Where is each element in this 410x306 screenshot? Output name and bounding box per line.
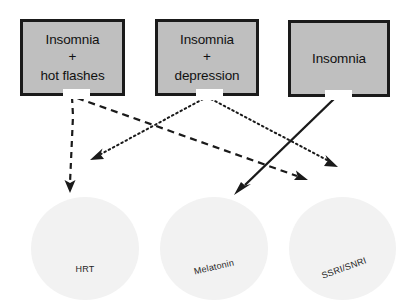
connector-notch-depression bbox=[196, 89, 223, 100]
connector-notch-hot-flashes bbox=[63, 89, 90, 99]
connection-hot-flashes-to-hrt bbox=[65, 97, 76, 193]
arrowhead-ssri-dotted bbox=[324, 155, 338, 167]
arrowhead-melatonin-solid bbox=[234, 182, 251, 195]
arrow-layer bbox=[0, 0, 410, 306]
diagram-canvas: Insomnia + hot flashes Insomnia + depres… bbox=[0, 0, 410, 306]
connection-hot-flashes-to-ssri-snri bbox=[77, 98, 308, 180]
arrowhead-hrt-dashed bbox=[65, 180, 76, 193]
connection-depression-to-hrt bbox=[90, 99, 203, 160]
connector-notch-insomnia bbox=[325, 90, 352, 100]
connection-insomnia-to-melatonin bbox=[234, 97, 336, 195]
